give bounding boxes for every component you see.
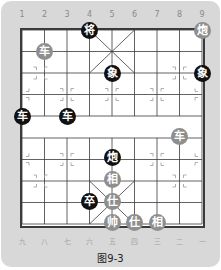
piece-red-advisor[interactable]: 仕 (126, 214, 143, 231)
file-label: 二 (174, 237, 186, 247)
file-label: 七 (61, 237, 73, 247)
piece-red-chariot[interactable]: 车 (36, 43, 53, 60)
file-label: 五 (106, 237, 118, 247)
piece-red-cannon[interactable]: 炮 (194, 22, 211, 39)
piece-red-marshal[interactable]: 帅 (104, 214, 121, 231)
piece-red-advisor[interactable]: 仕 (104, 193, 121, 210)
piece-red-minister[interactable]: 相 (104, 171, 121, 188)
piece-black-chariot[interactable]: 车 (59, 108, 76, 125)
file-label: 九 (16, 237, 28, 247)
piece-black-chariot[interactable]: 车 (14, 108, 31, 125)
piece-black-elephant[interactable]: 象 (104, 65, 121, 82)
piece-red-chariot[interactable]: 车 (171, 128, 188, 145)
file-label: 八 (39, 237, 51, 247)
piece-red-minister[interactable]: 相 (149, 214, 166, 231)
piece-black-elephant[interactable]: 象 (194, 65, 211, 82)
file-label: 三 (151, 237, 163, 247)
file-label: 六 (84, 237, 96, 247)
piece-black-soldier[interactable]: 卒 (81, 193, 98, 210)
file-label: 四 (129, 237, 141, 247)
piece-black-general[interactable]: 将 (81, 22, 98, 39)
file-label: 一 (196, 237, 208, 247)
piece-black-cannon[interactable]: 炮 (104, 149, 121, 166)
figure-caption: 图9-3 (0, 250, 221, 265)
